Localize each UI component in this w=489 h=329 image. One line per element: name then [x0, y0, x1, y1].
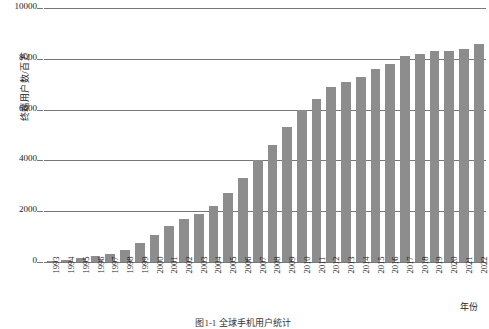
bar-slot [88, 8, 103, 262]
bar [223, 193, 233, 262]
bar-slot [353, 8, 368, 262]
bar-slot [206, 8, 221, 262]
x-tick-slot: 2007 [250, 264, 265, 308]
bar [238, 178, 248, 262]
x-tick-slot: 2000 [147, 264, 162, 308]
bar-slot [471, 8, 486, 262]
y-tick-label: 8000 [19, 52, 37, 62]
bar-slot [147, 8, 162, 262]
bar [282, 127, 292, 262]
x-axis-title: 年份 [460, 300, 478, 313]
bar-slot [177, 8, 192, 262]
bar [326, 87, 336, 262]
bar-slot [383, 8, 398, 262]
y-tick-mark [37, 262, 43, 263]
bar [268, 145, 278, 262]
y-axis-title: 终端用户数/百万 [18, 7, 31, 167]
x-tick-slot: 2012 [324, 264, 339, 308]
x-tick-slot: 2017 [398, 264, 413, 308]
bar-slot [103, 8, 118, 262]
bar [385, 64, 395, 262]
x-tick-slot: 2006 [236, 264, 251, 308]
bar [371, 69, 381, 262]
bar-slot [398, 8, 413, 262]
x-tick-slot: 2002 [177, 264, 192, 308]
y-tick-label: 10000 [15, 1, 38, 11]
y-tick-mark [37, 59, 43, 60]
bar-slot [368, 8, 383, 262]
y-tick-label: 2000 [19, 204, 37, 214]
x-tick-slot: 2016 [383, 264, 398, 308]
x-tick-slot: 1999 [132, 264, 147, 308]
x-axis-tick-labels: 1993199419951996199719981999200020012002… [44, 264, 486, 308]
y-tick-label: 0 [33, 255, 38, 265]
y-tick-mark [37, 211, 43, 212]
x-tick-slot: 1993 [44, 264, 59, 308]
bar [430, 51, 440, 262]
bar [474, 44, 484, 262]
bar-slot [265, 8, 280, 262]
bar [297, 110, 307, 262]
x-tick-slot: 2008 [265, 264, 280, 308]
y-tick-mark [37, 160, 43, 161]
bar-slot [236, 8, 251, 262]
figure-caption: 图1-1 全球手机用户统计 [0, 316, 486, 329]
x-tick-slot: 2011 [309, 264, 324, 308]
x-tick-slot: 1997 [103, 264, 118, 308]
x-tick-slot: 2009 [280, 264, 295, 308]
bar-slot [339, 8, 354, 262]
bar-slot [427, 8, 442, 262]
y-tick-label: 4000 [19, 153, 37, 163]
bar-slot [44, 8, 59, 262]
bar [356, 77, 366, 262]
x-tick-slot: 2013 [339, 264, 354, 308]
y-tick-mark [37, 110, 43, 111]
bar-series [44, 8, 486, 262]
x-tick-slot: 2001 [162, 264, 177, 308]
x-tick-slot: 1995 [73, 264, 88, 308]
bar-slot [191, 8, 206, 262]
bar-slot [162, 8, 177, 262]
x-tick-slot: 2004 [206, 264, 221, 308]
bar-slot [280, 8, 295, 262]
bar [312, 99, 322, 262]
bar [341, 82, 351, 262]
x-tick-slot: 2020 [442, 264, 457, 308]
y-tick-label: 6000 [19, 103, 37, 113]
bar [400, 56, 410, 262]
x-tick-slot: 2019 [427, 264, 442, 308]
bar-slot [59, 8, 74, 262]
x-tick-slot: 1994 [59, 264, 74, 308]
bar [209, 206, 219, 262]
bar-slot [132, 8, 147, 262]
bar [459, 49, 469, 262]
x-tick-slot: 2015 [368, 264, 383, 308]
bar-slot [412, 8, 427, 262]
x-tick-slot: 2003 [191, 264, 206, 308]
bar-slot [73, 8, 88, 262]
y-tick-mark [37, 8, 43, 9]
bar [194, 214, 204, 262]
x-tick-slot: 2014 [353, 264, 368, 308]
x-tick-slot: 1996 [88, 264, 103, 308]
bar [444, 51, 454, 262]
bar-slot [457, 8, 472, 262]
bar-slot [294, 8, 309, 262]
bar-slot [442, 8, 457, 262]
bar-slot [118, 8, 133, 262]
bar [415, 54, 425, 262]
bar-slot [324, 8, 339, 262]
bar [253, 160, 263, 262]
plot-area: 0200040006000800010000 [44, 8, 486, 262]
x-tick-slot: 2010 [294, 264, 309, 308]
bar-slot [250, 8, 265, 262]
x-tick-label: 2022 [479, 257, 489, 274]
x-tick-slot: 2018 [412, 264, 427, 308]
x-tick-slot: 1998 [118, 264, 133, 308]
bar-slot [309, 8, 324, 262]
x-tick-slot: 2005 [221, 264, 236, 308]
bar-slot [221, 8, 236, 262]
